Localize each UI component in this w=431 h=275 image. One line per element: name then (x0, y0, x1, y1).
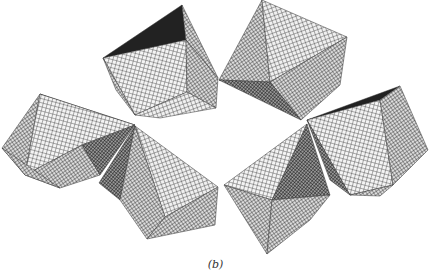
octahedra-diagram (0, 0, 431, 275)
octahedron-top-right (219, 0, 347, 120)
octahedron-top-left (103, 5, 218, 118)
octahedron-lower-right (224, 124, 330, 254)
figure-caption: (b) (0, 258, 431, 271)
